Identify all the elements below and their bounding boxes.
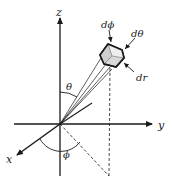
dphi-label: dϕ bbox=[101, 19, 114, 30]
dtheta-pointer-arrow bbox=[125, 38, 135, 49]
dtheta-label: dθ bbox=[131, 28, 143, 39]
z-axis-label: z bbox=[55, 6, 62, 19]
volume-element-box bbox=[100, 44, 124, 67]
spherical-coordinates-diagram: z y x θ ϕ dϕ dθ dr bbox=[0, 0, 172, 183]
dphi-pointer-arrow bbox=[109, 30, 111, 42]
x-axis-label: x bbox=[6, 153, 13, 166]
theta-label: θ bbox=[66, 81, 72, 92]
dr-label: dr bbox=[136, 72, 148, 83]
phi-label: ϕ bbox=[63, 149, 70, 160]
dr-pointer-arrow bbox=[124, 63, 134, 72]
y-axis-label: y bbox=[157, 119, 165, 132]
theta-arc bbox=[60, 92, 77, 97]
